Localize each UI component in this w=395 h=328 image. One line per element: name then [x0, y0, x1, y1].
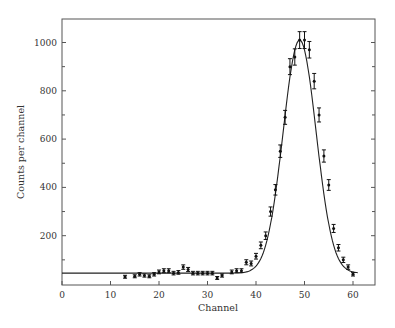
data-point: [162, 269, 166, 273]
data-point: [288, 59, 292, 75]
data-point: [196, 271, 200, 275]
x-axis-label: Channel: [198, 302, 238, 313]
data-point: [259, 242, 263, 249]
y-tick-label: 800: [40, 86, 57, 96]
y-tick-label: 200: [40, 231, 57, 241]
data-point: [351, 273, 355, 276]
data-point: [123, 275, 127, 278]
data-point: [147, 275, 151, 278]
x-tick-label: 20: [153, 290, 165, 300]
data-point: [322, 150, 326, 162]
data-point: [244, 260, 248, 265]
data-point: [283, 110, 287, 124]
data-point: [176, 271, 180, 275]
data-point: [133, 275, 137, 278]
data-point: [317, 108, 321, 122]
y-axis-ticks: 2004006008001000: [34, 38, 375, 260]
data-point: [186, 267, 190, 271]
data-point: [341, 257, 345, 262]
y-tick-label: 1000: [34, 38, 57, 48]
data-point: [142, 274, 146, 277]
data-point: [220, 274, 224, 277]
x-axis-ticks: 0102030405060: [59, 281, 359, 300]
x-tick-label: 50: [299, 290, 311, 300]
chart: 0102030405060 2004006008001000 Channel C…: [0, 0, 395, 328]
x-tick-label: 40: [250, 290, 262, 300]
plot-frame: [62, 19, 375, 285]
data-point: [254, 253, 258, 259]
y-axis-label: Counts per channel: [15, 105, 26, 199]
x-tick-label: 30: [202, 290, 214, 300]
x-tick-label: 60: [347, 290, 359, 300]
data-point: [336, 245, 340, 252]
data-point: [307, 41, 311, 58]
data-point: [191, 271, 195, 275]
x-tick-label: 10: [105, 290, 117, 300]
data-point: [298, 32, 302, 49]
y-tick-label: 400: [40, 182, 57, 192]
data-point: [181, 265, 185, 269]
data-point: [172, 271, 176, 275]
y-tick-label: 600: [40, 134, 57, 144]
data-point: [215, 276, 219, 279]
data-point: [327, 180, 331, 191]
data-point: [332, 224, 336, 232]
data-point: [293, 49, 297, 65]
data-point: [249, 261, 253, 266]
data-point: [312, 73, 316, 88]
data-point: [167, 269, 171, 273]
data-points: [123, 32, 355, 280]
data-point: [201, 271, 205, 275]
data-point: [235, 269, 239, 273]
fit-curve: [62, 40, 358, 273]
data-point: [210, 271, 214, 275]
data-point: [206, 271, 210, 275]
x-tick-label: 0: [59, 290, 65, 300]
